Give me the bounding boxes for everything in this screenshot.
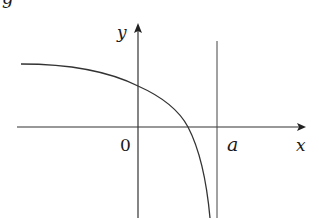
x-axis-label: x [296, 135, 306, 155]
function-curve [21, 64, 210, 218]
partial-figure-label: g [2, 0, 14, 8]
graph-figure: g y 0 a x [0, 0, 319, 218]
origin-label: 0 [120, 135, 131, 155]
asymptote-a-label: a [227, 133, 238, 155]
y-axis-label: y [116, 22, 127, 42]
